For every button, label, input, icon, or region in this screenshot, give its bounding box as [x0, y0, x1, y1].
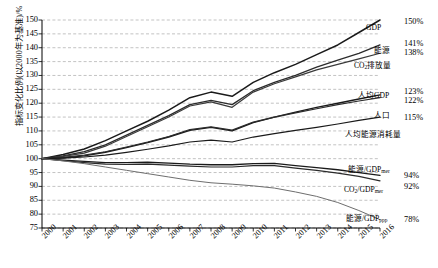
- series-line: [42, 117, 380, 159]
- line-chart: 指标变化比例(以2000年为基准)/% 75808590951001051101…: [0, 0, 438, 268]
- series-label: 能源/GDPmer: [348, 166, 390, 174]
- y-axis-tick: 85: [16, 196, 38, 204]
- series-value-label: 122%: [404, 97, 423, 105]
- y-axis-tick: 100: [16, 155, 38, 163]
- series-label: GDP: [366, 24, 381, 32]
- series-value-label: 92%: [404, 183, 419, 191]
- series-label: 人口: [374, 112, 390, 120]
- y-axis-tick: 80: [16, 210, 38, 218]
- series-value-label: 94%: [404, 172, 419, 180]
- y-axis-tick: 145: [16, 30, 38, 38]
- y-axis-tick: 75: [16, 224, 38, 232]
- series-label: 人均能源消耗量: [345, 131, 401, 139]
- series-label: CO2排放量: [354, 62, 391, 71]
- series-label: 能源/GDPppp: [346, 215, 387, 223]
- y-axis-tick: 125: [16, 85, 38, 93]
- series-value-label: 138%: [404, 49, 423, 57]
- series-label: 能源: [374, 47, 390, 55]
- series-label: 人均GDP: [358, 92, 389, 100]
- series-value-label: 150%: [404, 18, 423, 26]
- y-axis-tick: 140: [16, 44, 38, 52]
- series-label: CO2/GDPmer: [344, 186, 383, 195]
- series-line: [42, 159, 380, 220]
- y-axis-tick: 135: [16, 58, 38, 66]
- y-axis-tick: 90: [16, 182, 38, 190]
- y-axis-tick: 110: [16, 127, 38, 135]
- y-axis-tick: 130: [16, 71, 38, 79]
- y-axis-tick: 115: [16, 113, 38, 121]
- y-axis-tick: 150: [16, 16, 38, 24]
- series-value-label: 115%: [404, 114, 423, 122]
- series-value-label: 78%: [404, 216, 419, 224]
- y-axis-tick: 120: [16, 99, 38, 107]
- y-axis-tick: 105: [16, 141, 38, 149]
- y-axis-tick: 95: [16, 169, 38, 177]
